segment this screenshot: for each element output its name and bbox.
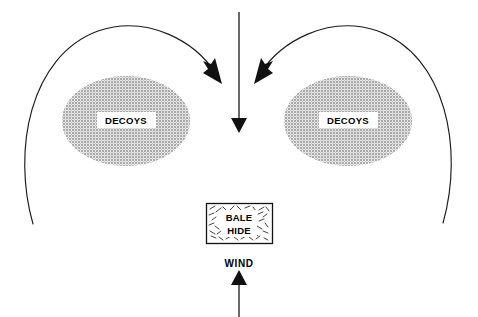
decoy-label-left: DECOYS bbox=[105, 115, 147, 126]
flight-arc-left-arrowhead-icon bbox=[203, 58, 222, 84]
diagram-canvas: DECOYS DECOYS bbox=[0, 0, 478, 317]
wind-arrow-head-icon bbox=[231, 270, 247, 285]
bale-hide-group: BALE HIDE bbox=[207, 204, 273, 244]
decoy-spread-diagram: DECOYS DECOYS bbox=[0, 0, 478, 317]
center-landing-arrow bbox=[231, 12, 247, 133]
wind-label: WIND bbox=[224, 258, 253, 269]
decoy-spread-right: DECOYS bbox=[284, 76, 412, 166]
center-arrow-head-icon bbox=[231, 118, 247, 133]
decoy-spread-left: DECOYS bbox=[62, 76, 190, 166]
decoy-label-right: DECOYS bbox=[327, 115, 369, 126]
flight-arc-right-arrowhead-icon bbox=[254, 58, 273, 84]
wind-indicator-group: WIND bbox=[224, 258, 253, 317]
bale-hide-label-line1: BALE bbox=[226, 212, 253, 223]
bale-hide-label-line2: HIDE bbox=[227, 225, 251, 236]
